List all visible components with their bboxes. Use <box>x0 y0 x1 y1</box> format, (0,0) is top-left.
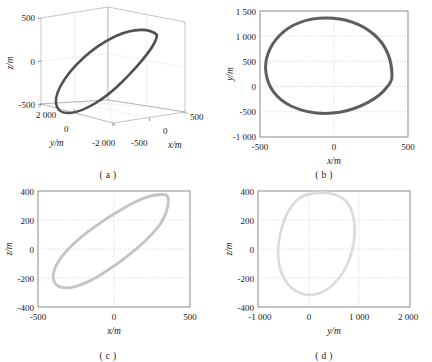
panel-b-ytick-1500: 1 500 <box>236 7 257 17</box>
panel-b-xaxis-label: x/m <box>326 156 341 166</box>
panel-d-xaxis-label: y/m <box>326 326 341 336</box>
panel-a-ytick-0: 0 <box>64 124 69 134</box>
panel-d-plot: 400 200 0 -200 -400 z/m -1 000 0 1 000 2… <box>216 181 432 362</box>
panel-c-xaxis-label: x/m <box>106 326 121 336</box>
panel-a-ztick-neg500: -500 <box>19 100 36 110</box>
panel-b-ytick-500: 500 <box>243 57 257 67</box>
panel-c-plot: 400 200 0 -200 -400 z/m -500 0 500 x/m <box>0 181 216 362</box>
panel-d-xtick-2000: 2 000 <box>398 312 419 322</box>
panel-c-xz-projection: 400 200 0 -200 -400 z/m -500 0 500 x/m (… <box>0 181 216 362</box>
panel-d-xtick-0: 0 <box>307 312 312 322</box>
panel-a-3d-trajectory: 500 0 -500 z/m 2 000 0 -2 000 y/m -500 0… <box>0 0 216 181</box>
panel-c-ytick-neg400: -400 <box>18 303 35 313</box>
panel-c-xtick-500: 500 <box>183 312 197 322</box>
panel-b-xy-projection: 1 500 1 000 500 0 -500 -1 000 y/m -500 0… <box>216 0 432 181</box>
figure-four-panel-orbit-projections: 500 0 -500 z/m 2 000 0 -2 000 y/m -500 0… <box>0 0 432 362</box>
panel-c-caption: ( c ) <box>0 351 216 361</box>
panel-d-xtick-1000: 1 000 <box>349 312 370 322</box>
panel-b-xtick-neg500: -500 <box>252 142 269 152</box>
panel-d-yaxis-label: z/m <box>224 242 234 256</box>
panel-a-zaxis-label: z/m <box>5 56 15 70</box>
panel-d-ytick-400: 400 <box>241 187 255 197</box>
panel-a-xtick-neg500: -500 <box>131 138 148 148</box>
panel-a-ytick-2000: 2 000 <box>36 110 57 120</box>
panel-a-yaxis-label: y/m <box>49 138 64 148</box>
panel-d-ytick-neg200: -200 <box>238 274 255 284</box>
panel-a-ztick-500: 500 <box>22 13 36 23</box>
panel-d-caption: ( d ) <box>216 351 432 361</box>
panel-b-plot: 1 500 1 000 500 0 -500 -1 000 y/m -500 0… <box>216 0 432 181</box>
panel-b-xtick-500: 500 <box>401 142 415 152</box>
panel-a-ztick-0: 0 <box>31 57 36 67</box>
panel-c-ytick-400: 400 <box>21 187 35 197</box>
panel-d-ytick-0: 0 <box>250 245 255 255</box>
panel-c-ytick-neg200: -200 <box>18 274 35 284</box>
panel-c-ytick-0: 0 <box>30 245 35 255</box>
panel-a-xtick-500: 500 <box>190 112 204 122</box>
panel-d-ytick-neg400: -400 <box>238 303 255 313</box>
panel-c-ytick-200: 200 <box>21 216 35 226</box>
panel-b-ytick-neg1000: -1 000 <box>233 132 257 142</box>
panel-b-ytick-0: 0 <box>252 82 257 92</box>
panel-a-ytick-neg2000: -2 000 <box>92 138 116 148</box>
panel-b-caption: ( b ) <box>216 170 432 180</box>
panel-c-xtick-0: 0 <box>112 312 117 322</box>
panel-b-xtick-0: 0 <box>332 142 337 152</box>
panel-b-ytick-neg500: -500 <box>240 107 257 117</box>
panel-a-xaxis-label: x/m <box>167 140 182 150</box>
panel-a-caption: ( a ) <box>0 170 216 180</box>
axis-box-3d <box>41 7 185 123</box>
panel-d-ytick-200: 200 <box>241 216 255 226</box>
panel-c-xtick-neg500: -500 <box>30 312 47 322</box>
panel-b-ytick-1000: 1 000 <box>236 32 257 42</box>
panel-a-xtick-0: 0 <box>163 126 168 136</box>
panel-d-xtick-neg1000: -1 000 <box>248 312 272 322</box>
panel-b-yaxis-label: y/m <box>225 67 235 82</box>
panel-a-plot: 500 0 -500 z/m 2 000 0 -2 000 y/m -500 0… <box>0 0 216 181</box>
panel-c-yaxis-label: z/m <box>4 242 14 256</box>
panel-d-yz-projection: 400 200 0 -200 -400 z/m -1 000 0 1 000 2… <box>216 181 432 362</box>
